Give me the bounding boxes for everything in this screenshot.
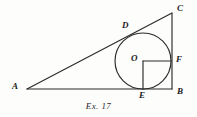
label-point-e: E bbox=[139, 91, 145, 100]
label-circle-center-o: O bbox=[131, 54, 138, 63]
label-point-f: F bbox=[176, 55, 182, 64]
geometry-drawing bbox=[0, 0, 197, 117]
label-point-d: D bbox=[122, 21, 129, 30]
geometry-figure: A B C D E F O Ex. 17 bbox=[0, 0, 197, 117]
label-point-b: B bbox=[177, 87, 183, 96]
label-point-a: A bbox=[12, 82, 18, 91]
triangle-side-ca bbox=[27, 13, 172, 89]
label-point-c: C bbox=[177, 4, 183, 13]
figure-caption: Ex. 17 bbox=[0, 101, 197, 112]
